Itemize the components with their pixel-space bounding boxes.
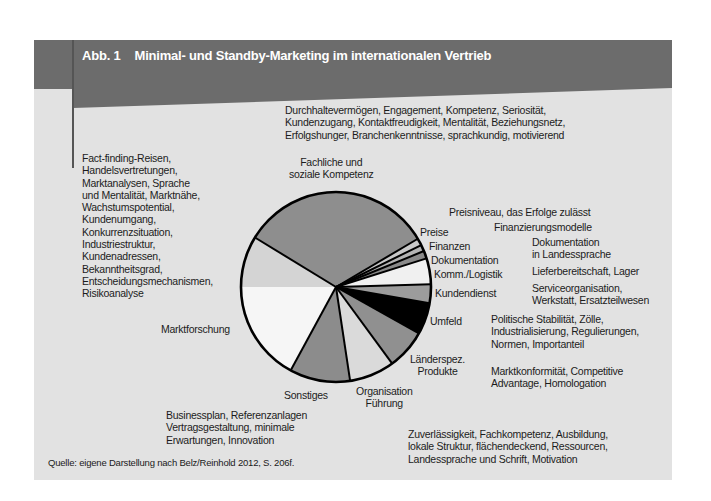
slice-label-organisation: Organisation Führung (356, 385, 413, 410)
slice-label-kundendienst: Kundendienst (435, 287, 496, 299)
description-logistik: Lieferbereitschaft, Lager (532, 265, 639, 277)
slice-label-umfeld: Umfeld (430, 315, 462, 327)
description-dokumentation: Dokumentation in Landessprache (532, 236, 611, 261)
slice-label-preise: Preise (420, 226, 448, 238)
slice-label-sonstiges: Sonstiges (284, 389, 328, 401)
slice-label-marktforschung: Marktforschung (161, 323, 230, 335)
source-note: Quelle: eigene Darstellung nach Belz/Rei… (48, 457, 294, 468)
slice-label-fachliche: Fachliche und soziale Kompetenz (289, 156, 373, 181)
description-fachliche: Durchhaltevermögen, Engagement, Kompeten… (285, 104, 565, 141)
description-sonstiges: Businessplan, Referenzanlagen Vertragsge… (166, 409, 307, 446)
description-preise: Preisniveau, das Erfolge zulässt (449, 206, 590, 218)
description-marktforschung: Fact-finding-Reisen, Handelsvertretungen… (82, 152, 213, 300)
description-organisation: Zuverlässigkeit, Fachkompetenz, Ausbildu… (408, 428, 608, 465)
slice-label-logistik: Komm./Logistik (434, 268, 502, 280)
description-kundendienst: Serviceorganisation, Werkstatt, Ersatzte… (532, 282, 649, 307)
description-laenderspez: Marktkonformität, Competitive Advantage,… (491, 365, 623, 390)
description-umfeld: Politische Stabilität, Zölle, Industrial… (491, 313, 639, 350)
slice-label-finanzen: Finanzen (429, 240, 470, 252)
description-finanzen: Finanzierungsmodelle (494, 221, 592, 233)
slice-label-laenderspez: Länderspez. Produkte (410, 353, 465, 378)
slice-label-dokumentation: Dokumentation (431, 254, 498, 266)
